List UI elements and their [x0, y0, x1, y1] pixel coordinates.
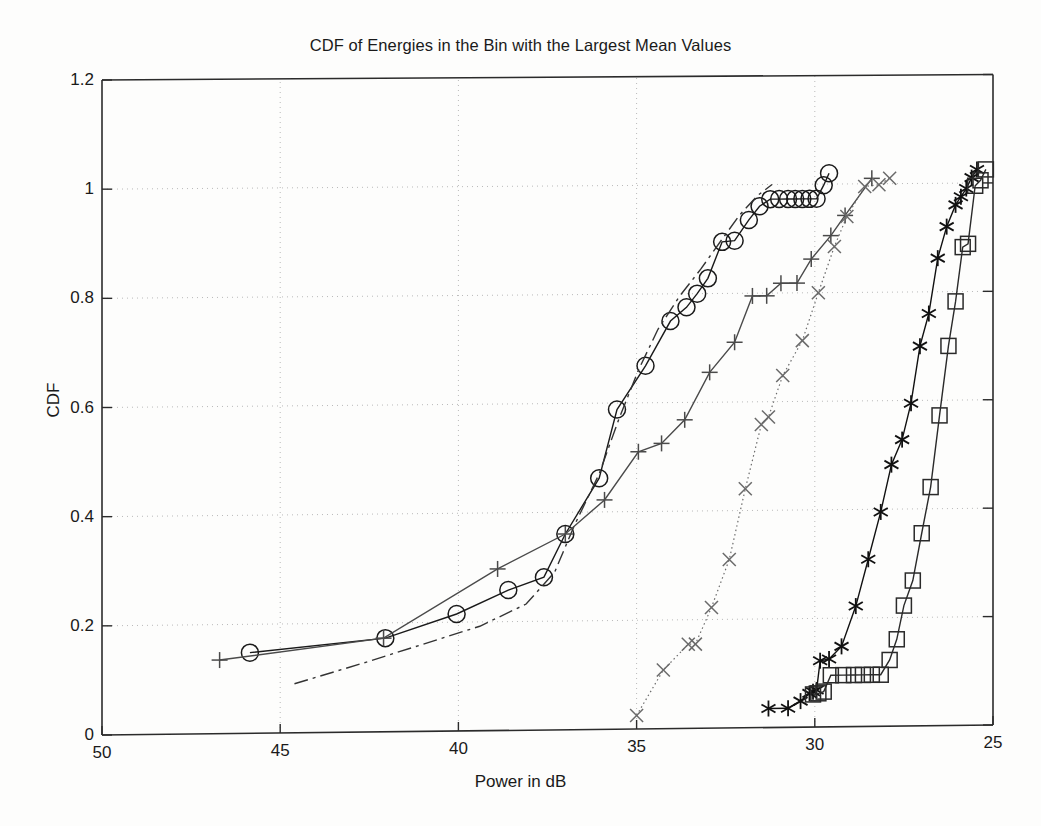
y-axis-label: CDF: [44, 340, 64, 460]
x-axis-label: Power in dB: [0, 772, 1041, 792]
axis-border: [102, 75, 993, 81]
y-tick-label: 0.4: [34, 507, 94, 527]
x-tick-label: 35: [607, 737, 667, 757]
x-tick-label: 25: [963, 733, 1023, 753]
series-line: [220, 178, 872, 660]
gridline-horizontal: [102, 291, 993, 298]
series-line: [294, 184, 772, 683]
gridline-horizontal: [102, 508, 993, 517]
series-line: [768, 169, 976, 708]
series-line: [637, 178, 890, 715]
gridline-horizontal: [102, 617, 993, 626]
x-tick-label: 50: [72, 743, 132, 763]
axis-lines: [102, 75, 993, 736]
y-tick-label: 0.8: [34, 288, 94, 308]
series-square-series: [806, 162, 994, 702]
data-series-group: [212, 161, 994, 721]
x-tick-label: 30: [785, 735, 845, 755]
series-plus-series: [212, 170, 880, 668]
series-circle-series: [241, 165, 837, 661]
x-tick-label: 40: [428, 739, 488, 759]
grid-lines: [102, 76, 993, 733]
y-tick-label: 0.6: [34, 398, 94, 418]
x-tick-label: 45: [250, 741, 310, 761]
y-tick-label: 1.2: [34, 70, 94, 90]
gridline-horizontal: [102, 183, 993, 189]
series-dashdot-series: [294, 184, 772, 683]
figure-container: CDF of Energies in the Bin with the Larg…: [0, 0, 1041, 826]
plot-canvas: [0, 0, 1041, 826]
axis-border: [102, 725, 993, 735]
y-tick-label: 0.2: [34, 616, 94, 636]
y-tick-label: 1: [34, 179, 94, 199]
x-axis-tick-labels: 504540353025: [0, 742, 1041, 772]
series-asterisk-series: [761, 161, 983, 716]
gridline-horizontal: [102, 400, 993, 408]
series-cross-series: [630, 172, 896, 722]
